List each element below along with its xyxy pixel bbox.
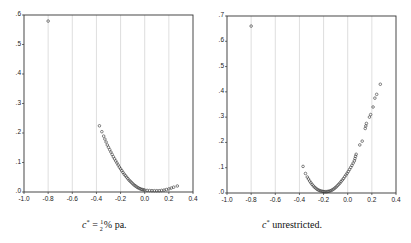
x-tick-label: -1.0 xyxy=(221,196,233,203)
plot-frame xyxy=(24,15,193,192)
y-tick-label: .6 xyxy=(16,10,22,17)
data-point xyxy=(365,125,368,128)
y-tick-label: .7 xyxy=(219,11,225,18)
data-point xyxy=(105,141,108,144)
x-tick-label: -0.4 xyxy=(294,196,306,203)
data-point xyxy=(172,186,175,189)
data-point xyxy=(374,97,377,100)
data-point xyxy=(304,172,307,175)
data-point xyxy=(102,135,105,138)
x-tick-label: 0.4 xyxy=(188,195,197,202)
y-tick-label: .5 xyxy=(16,40,22,47)
data-point xyxy=(302,165,305,168)
y-tick-label: .4 xyxy=(219,87,225,94)
y-tick-label: .6 xyxy=(219,36,225,43)
data-point xyxy=(375,93,378,96)
right-caption: c* unrestricted. xyxy=(262,218,322,230)
x-tick-label: 0.0 xyxy=(343,196,352,203)
x-tick-label: -0.2 xyxy=(318,196,330,203)
chart-figure: -1.0-0.8-0.6-0.4-0.20.00.20.4.0.1.2.3.4.… xyxy=(0,0,411,243)
data-point xyxy=(104,138,107,141)
y-tick-label: .3 xyxy=(219,112,225,119)
left-scatter-panel: -1.0-0.8-0.6-0.4-0.20.00.20.4.0.1.2.3.4.… xyxy=(16,10,198,202)
right-scatter-panel: -1.0-0.8-0.6-0.4-0.20.00.20.4.0.1.2.3.4.… xyxy=(219,11,401,203)
y-tick-label: .1 xyxy=(219,163,225,170)
data-point xyxy=(365,122,368,125)
data-point xyxy=(101,130,104,133)
y-tick-label: .0 xyxy=(16,187,22,194)
x-tick-label: 0.2 xyxy=(367,196,376,203)
y-tick-label: .4 xyxy=(16,69,22,76)
x-tick-label: 0.0 xyxy=(140,195,149,202)
x-tick-label: -0.6 xyxy=(67,195,79,202)
x-tick-label: 0.4 xyxy=(391,196,400,203)
left-caption: c* = 12% pa. xyxy=(82,218,127,232)
plot-frame xyxy=(227,16,396,193)
x-tick-label: -0.8 xyxy=(43,195,55,202)
data-point xyxy=(176,185,179,188)
x-tick-label: 0.2 xyxy=(164,195,173,202)
y-tick-label: .0 xyxy=(219,188,225,195)
y-tick-label: .2 xyxy=(219,137,225,144)
y-tick-label: .5 xyxy=(219,62,225,69)
x-tick-label: -0.6 xyxy=(270,196,282,203)
y-tick-label: .3 xyxy=(16,99,22,106)
x-tick-label: -0.2 xyxy=(115,195,127,202)
data-point xyxy=(98,125,101,128)
x-tick-label: -1.0 xyxy=(18,195,30,202)
data-point xyxy=(364,127,367,130)
data-point xyxy=(361,140,364,143)
x-tick-label: -0.8 xyxy=(246,196,258,203)
y-tick-label: .1 xyxy=(16,158,22,165)
data-point xyxy=(358,144,361,147)
y-tick-label: .2 xyxy=(16,128,22,135)
data-point xyxy=(368,116,371,119)
data-point xyxy=(379,83,382,86)
x-tick-label: -0.4 xyxy=(91,195,103,202)
